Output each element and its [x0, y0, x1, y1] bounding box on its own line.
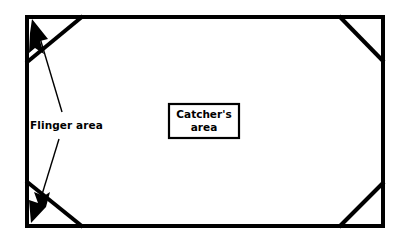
playfield-diagram: Flinger area Catcher's area	[0, 0, 412, 247]
catcher-area-label-line1: Catcher's	[176, 108, 231, 120]
flinger-area-label: Flinger area	[30, 119, 103, 131]
catcher-area-label-line2: area	[191, 121, 217, 133]
